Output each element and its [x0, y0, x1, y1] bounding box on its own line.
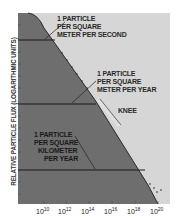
x-tick-label: 1010	[36, 206, 49, 215]
annotation-per-year: 1 PARTICLE PER SQUARE METER PER YEAR	[97, 70, 156, 94]
annotation-line: METER PER YEAR	[97, 86, 156, 94]
y-axis-label: RELATIVE PARTICLE FLUX (LOGARITHMIC UNIT…	[10, 37, 17, 187]
annotation-line: PER YEAR	[34, 155, 78, 163]
annotation-line: KILOMETER	[34, 147, 78, 155]
x-tick-label: 1016	[104, 206, 117, 215]
x-tick-label: 1014	[81, 206, 94, 215]
x-tick-label: 1012	[58, 206, 71, 215]
x-tick-label: 1018	[127, 206, 140, 215]
annotation-line: 1 PARTICLE	[57, 15, 127, 23]
annotation-knee: KNEE	[118, 107, 137, 115]
annotation-line: PER SQUARE	[57, 23, 127, 31]
annotation-line: PER SQUARE	[34, 139, 78, 147]
annotation-line: PER SQUARE	[97, 78, 156, 86]
annotation-line: METER PER SECOND	[57, 31, 127, 39]
x-tick-label: 1020	[150, 206, 163, 215]
annotation-line: 1 PARTICLE	[97, 70, 156, 78]
annotation-line: 1 PARTICLE	[34, 131, 78, 139]
annotation-per-second: 1 PARTICLE PER SQUARE METER PER SECOND	[57, 15, 127, 39]
annotation-per-km-year: 1 PARTICLE PER SQUARE KILOMETER PER YEAR	[34, 131, 78, 163]
